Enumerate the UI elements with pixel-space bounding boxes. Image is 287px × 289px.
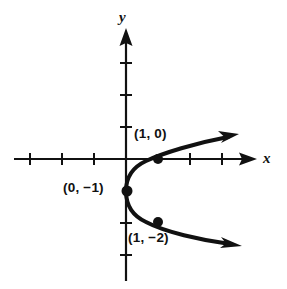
parabola-graph-figure: (1, 0) (0, −1) (1, −2) x y	[0, 0, 287, 289]
marked-point-0-neg1	[122, 186, 133, 197]
y-axis-label: y	[119, 9, 126, 26]
point-label-1-0: (1, 0)	[134, 126, 167, 141]
parabola-upper-branch	[126, 137, 228, 191]
coordinate-plane-svg	[0, 0, 287, 289]
marked-point-1-0	[153, 154, 163, 164]
marked-point-1-neg2	[153, 217, 163, 227]
point-label-1-neg2: (1, −2)	[128, 230, 169, 245]
x-axis-label: x	[263, 150, 271, 167]
point-label-0-neg1: (0, −1)	[63, 180, 104, 195]
